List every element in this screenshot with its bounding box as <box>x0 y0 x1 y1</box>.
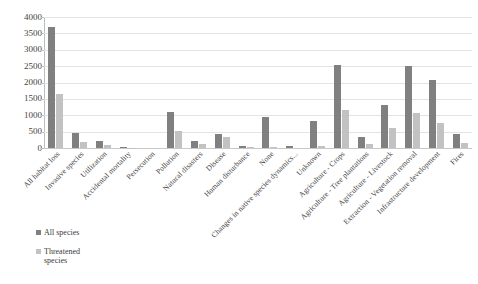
legend-swatch-icon <box>36 230 41 235</box>
bar-group <box>306 17 330 148</box>
bar-threatened-species <box>342 110 349 148</box>
y-axis-labels: 40003500300025002000150010005000 <box>0 0 42 165</box>
bar-threatened-species <box>413 113 420 148</box>
bar-group <box>187 17 211 148</box>
bar-threatened-species <box>223 137 230 148</box>
bar-all-species <box>429 80 436 148</box>
y-tick-label: 1500 <box>24 94 42 103</box>
axis-baseline <box>44 148 472 149</box>
x-tick-label: None <box>258 150 276 168</box>
y-tick-label: 500 <box>29 127 43 136</box>
bar-threatened-species <box>247 147 254 148</box>
bar-all-species <box>239 146 246 148</box>
bar-group <box>115 17 139 148</box>
legend-label: Threatened species <box>44 247 104 266</box>
x-tick-label: Human disturbance <box>203 150 252 199</box>
bar-group <box>234 17 258 148</box>
bar-group <box>353 17 377 148</box>
bar-all-species <box>286 146 293 148</box>
bar-all-species <box>453 134 460 148</box>
bar-threatened-species <box>104 145 111 148</box>
bar-group <box>92 17 116 148</box>
bar-all-species <box>262 117 269 148</box>
bar-all-species <box>310 121 317 149</box>
bar-all-species <box>96 141 103 148</box>
y-tick-label: 1000 <box>24 111 42 120</box>
bar-group <box>425 17 449 148</box>
y-tick-label: 4000 <box>24 13 42 22</box>
bar-threatened-species <box>175 131 182 148</box>
bar-threatened-species <box>318 146 325 148</box>
bar-threatened-species <box>270 147 277 148</box>
bar-group <box>329 17 353 148</box>
bar-chart: 40003500300025002000150010005000 All hab… <box>0 0 478 284</box>
bar-group <box>258 17 282 148</box>
bar-all-species <box>358 137 365 148</box>
chart-legend: All speciesThreatened species <box>36 228 156 275</box>
bar-threatened-species <box>389 128 396 148</box>
bar-all-species <box>215 134 222 148</box>
bar-group <box>401 17 425 148</box>
bar-all-species <box>334 65 341 149</box>
bar-group <box>282 17 306 148</box>
legend-item[interactable]: Threatened species <box>36 247 156 266</box>
y-tick-label: 3500 <box>24 29 42 38</box>
bar-group <box>68 17 92 148</box>
bars-layer <box>44 17 472 148</box>
bar-all-species <box>48 27 55 148</box>
bar-group <box>44 17 68 148</box>
bar-threatened-species <box>461 143 468 148</box>
y-tick-label: 3000 <box>24 45 42 54</box>
bar-threatened-species <box>437 123 444 148</box>
bar-group <box>377 17 401 148</box>
x-tick-label: Changes in native species dynamics... <box>210 150 300 240</box>
bar-all-species <box>381 105 388 148</box>
bar-threatened-species <box>199 144 206 148</box>
bar-group <box>163 17 187 148</box>
bar-threatened-species <box>366 144 373 148</box>
legend-swatch-icon <box>36 249 41 254</box>
bar-threatened-species <box>56 94 63 148</box>
bar-all-species <box>120 147 127 148</box>
x-tick-label: Fires <box>449 150 466 167</box>
bar-all-species <box>167 112 174 148</box>
bar-group <box>139 17 163 148</box>
legend-item[interactable]: All species <box>36 228 156 238</box>
bar-all-species <box>405 66 412 148</box>
legend-label: All species <box>44 228 79 238</box>
bar-threatened-species <box>80 142 87 148</box>
bar-all-species <box>191 141 198 148</box>
y-tick-label: 2000 <box>24 78 42 87</box>
y-tick-label: 2500 <box>24 62 42 71</box>
bar-group <box>210 17 234 148</box>
bar-group <box>448 17 472 148</box>
plot-area <box>44 17 472 148</box>
bar-all-species <box>72 133 79 148</box>
